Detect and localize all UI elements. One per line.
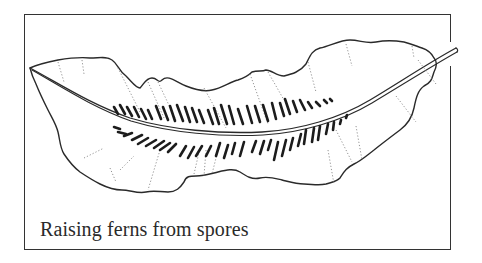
leaf-stem [30, 48, 458, 135]
figure-caption: Raising ferns from spores [40, 218, 249, 241]
leaf-veins [58, 44, 436, 190]
sori-upper [114, 99, 332, 124]
sori-lower [114, 115, 347, 160]
